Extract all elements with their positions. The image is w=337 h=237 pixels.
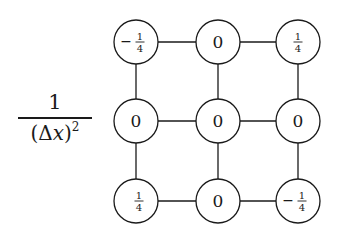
node-0-1: 0 — [213, 32, 224, 52]
numerator: 1 — [295, 31, 301, 42]
numerator: 1 — [136, 190, 142, 201]
denominator: 4 — [299, 202, 305, 213]
denominator: 4 — [137, 43, 143, 54]
node-1-1: 0 — [213, 111, 224, 131]
node-2-0: 1 4 — [135, 190, 144, 213]
node-0-2: 1 4 — [294, 31, 303, 54]
node-1-2: 0 — [293, 111, 304, 131]
sign: − — [120, 33, 132, 49]
denominator: 4 — [136, 202, 142, 213]
numerator: 1 — [137, 31, 143, 42]
node-2-1: 0 — [213, 191, 224, 211]
numerator: 1 — [299, 190, 305, 201]
node-1-0: 0 — [131, 111, 142, 131]
denominator: 4 — [295, 43, 301, 54]
stencil-grid: − 1 4 0 1 4 0 0 0 1 4 0 − 1 4 — [0, 0, 337, 237]
sign: − — [282, 192, 294, 208]
